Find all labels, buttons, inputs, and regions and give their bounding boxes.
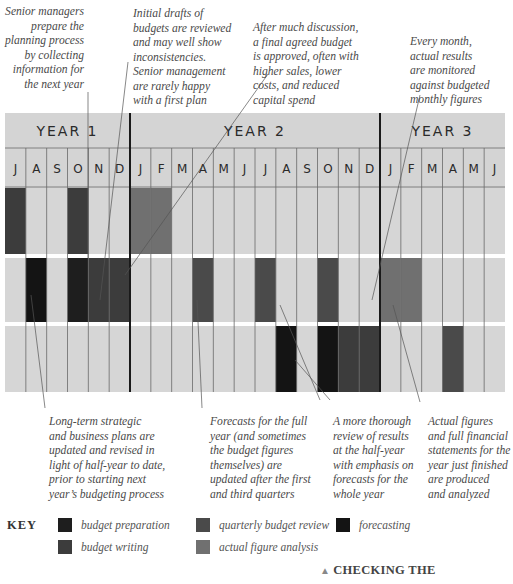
note-half-year-review: A more thorough review of results at the… bbox=[333, 415, 433, 502]
month-label: M bbox=[427, 162, 437, 176]
key-item-quarterly-budget-review: quarterly budget review bbox=[196, 518, 329, 532]
activity-cell-quarterly-budget-review bbox=[443, 326, 464, 392]
activity-cell-budget-writing bbox=[68, 188, 89, 254]
month-label: A bbox=[32, 162, 41, 176]
key-item-budget-writing: budget writing bbox=[58, 540, 148, 554]
month-label: S bbox=[53, 162, 61, 176]
activity-cell-quarterly-budget-review bbox=[255, 258, 276, 322]
triangle-up-icon: ▲ bbox=[320, 565, 330, 576]
key-item-budget-preparation: budget preparation bbox=[58, 518, 170, 532]
activity-cell-forecasting bbox=[318, 326, 339, 392]
activity-cell-budget-writing bbox=[5, 188, 26, 254]
month-label: J bbox=[388, 162, 393, 176]
month-label: F bbox=[408, 162, 415, 176]
year-label: YEAR 2 bbox=[223, 123, 286, 139]
activity-cell-actual-figure-analysis bbox=[401, 258, 422, 322]
month-label: D bbox=[115, 162, 124, 176]
note-senior-managers: Senior managers prepare the planning pro… bbox=[4, 5, 84, 92]
activity-cell-budget-writing bbox=[109, 258, 130, 322]
activity-cell-budget-writing bbox=[88, 258, 109, 322]
budget-writing-swatch bbox=[58, 540, 72, 554]
month-label: F bbox=[158, 162, 165, 176]
month-label: A bbox=[282, 162, 291, 176]
note-actual-figures: Actual figures and full financial statem… bbox=[428, 415, 513, 502]
month-label: D bbox=[365, 162, 374, 176]
activity-cell-actual-figure-analysis bbox=[130, 188, 151, 254]
activity-cell-forecasting bbox=[276, 326, 297, 392]
key-item-forecasting: forecasting bbox=[336, 518, 410, 532]
actual-figure-analysis-swatch bbox=[196, 540, 210, 554]
key-label: forecasting bbox=[359, 519, 410, 531]
month-label: J bbox=[138, 162, 143, 176]
quarterly-budget-review-swatch bbox=[196, 518, 210, 532]
note-monthly-monitoring: Every month, actual results are monitore… bbox=[410, 35, 510, 108]
activity-cell-actual-figure-analysis bbox=[380, 258, 401, 322]
year-label: YEAR 1 bbox=[35, 123, 98, 139]
month-label: M bbox=[469, 162, 479, 176]
month-label: M bbox=[177, 162, 187, 176]
month-label: N bbox=[344, 162, 353, 176]
figure-caption: ▲CHECKING THE bbox=[320, 563, 436, 578]
month-label: A bbox=[449, 162, 458, 176]
activity-cell-budget-writing bbox=[338, 326, 359, 392]
activity-cell-budget-preparation bbox=[68, 258, 89, 322]
key-label: budget writing bbox=[81, 541, 148, 553]
activity-cell-quarterly-budget-review bbox=[318, 258, 339, 322]
month-label: J bbox=[263, 162, 268, 176]
year-label: YEAR 3 bbox=[410, 123, 473, 139]
activity-cell-quarterly-budget-review bbox=[193, 258, 214, 322]
month-label: J bbox=[492, 162, 497, 176]
month-label: J bbox=[242, 162, 247, 176]
activity-cell-budget-writing bbox=[359, 326, 380, 392]
month-label: S bbox=[303, 162, 311, 176]
forecasting-swatch bbox=[336, 518, 350, 532]
note-initial-drafts: Initial drafts of budgets are reviewed a… bbox=[133, 7, 263, 109]
activity-cell-actual-figure-analysis bbox=[151, 188, 172, 254]
month-label: N bbox=[94, 162, 103, 176]
budget-preparation-swatch bbox=[58, 518, 72, 532]
caption-text: CHECKING THE bbox=[333, 563, 435, 577]
key-label: budget preparation bbox=[81, 519, 170, 531]
note-long-term-plans: Long-term strategic and business plans a… bbox=[49, 415, 199, 502]
month-label: O bbox=[73, 162, 82, 176]
month-label: M bbox=[219, 162, 229, 176]
month-label: J bbox=[13, 162, 18, 176]
key-label: actual figure analysis bbox=[219, 541, 318, 553]
key-title: KEY bbox=[7, 518, 37, 533]
note-final-budget: After much discussion, a final agreed bu… bbox=[253, 21, 388, 108]
month-label: O bbox=[323, 162, 332, 176]
note-forecasts: Forecasts for the full year (and sometim… bbox=[210, 415, 340, 502]
activity-cell-forecasting bbox=[26, 258, 47, 322]
key-label: quarterly budget review bbox=[219, 519, 329, 531]
key-item-actual-figure-analysis: actual figure analysis bbox=[196, 540, 318, 554]
